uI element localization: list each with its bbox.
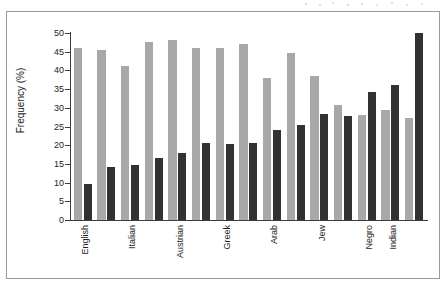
- bar-series-a: [263, 78, 271, 220]
- bar-group: [95, 33, 119, 220]
- bar-group: [237, 33, 261, 220]
- y-tick-mark: [65, 52, 70, 53]
- y-tick-mark: [65, 164, 70, 165]
- bar-series-a: [239, 44, 247, 220]
- y-axis-title: Frequency (%): [15, 21, 26, 181]
- bar-series-a: [358, 115, 366, 220]
- bar-series-b: [344, 116, 352, 220]
- bar-series-a: [216, 48, 224, 220]
- x-tick-label: English: [81, 225, 90, 255]
- x-axis-line: [70, 220, 428, 221]
- x-tick-label: Negro: [365, 225, 374, 250]
- bar-group: [402, 33, 426, 220]
- bar-series-b: [320, 114, 328, 220]
- bar-series-a: [121, 66, 129, 220]
- bar-series-b: [155, 158, 163, 220]
- scan-artifact: [300, 0, 440, 9]
- x-tick-label: Jew: [318, 225, 327, 241]
- y-tick-mark: [65, 183, 70, 184]
- bar-group: [355, 33, 379, 220]
- bar-series-b: [415, 33, 423, 220]
- x-tick-label: Indian: [389, 225, 398, 250]
- bar-series-b: [368, 92, 376, 220]
- bar-group: [331, 33, 355, 220]
- bar-series-b: [178, 153, 186, 220]
- bar-group: [308, 33, 332, 220]
- y-tick-mark: [65, 201, 70, 202]
- bar-group: [166, 33, 190, 220]
- bar-group: [213, 33, 237, 220]
- bar-group: [118, 33, 142, 220]
- bar-series-b: [273, 130, 281, 220]
- bar-series-b: [107, 167, 115, 220]
- bar-series-a: [145, 42, 153, 220]
- figure-root: 05101520253035404550 Frequency (%) Engli…: [0, 0, 448, 293]
- y-tick-mark: [65, 127, 70, 128]
- bar-series-b: [226, 144, 234, 220]
- x-tick-label: Arab: [270, 225, 279, 244]
- bar-series-b: [297, 125, 305, 220]
- bar-series-b: [131, 165, 139, 220]
- y-tick-label: 0: [18, 216, 64, 225]
- x-tick-label: Greek: [223, 225, 232, 250]
- bar-group: [142, 33, 166, 220]
- bar-group: [260, 33, 284, 220]
- y-tick-mark: [65, 70, 70, 71]
- y-tick-mark: [65, 89, 70, 90]
- plot-area: [71, 33, 426, 220]
- bar-series-b: [202, 143, 210, 220]
- bar-group: [189, 33, 213, 220]
- bar-series-a: [405, 118, 413, 220]
- bar-series-a: [287, 53, 295, 220]
- bar-group: [284, 33, 308, 220]
- bar-group: [379, 33, 403, 220]
- bar-series-b: [249, 143, 257, 220]
- bar-series-a: [334, 105, 342, 220]
- bar-series-a: [168, 40, 176, 220]
- y-tick-mark: [65, 108, 70, 109]
- y-tick-mark: [65, 33, 70, 34]
- bar-series-a: [310, 76, 318, 220]
- bar-series-a: [192, 48, 200, 220]
- y-tick-label: 5: [18, 197, 64, 206]
- y-tick-mark: [65, 145, 70, 146]
- bar-series-a: [381, 110, 389, 220]
- bar-series-a: [74, 48, 82, 220]
- bar-group: [71, 33, 95, 220]
- x-tick-label: Austrian: [176, 225, 185, 258]
- bar-series-b: [391, 85, 399, 220]
- x-tick-label: Italian: [128, 225, 137, 249]
- bar-series-b: [84, 184, 92, 220]
- bar-series-a: [97, 50, 105, 220]
- y-tick-mark: [65, 220, 70, 221]
